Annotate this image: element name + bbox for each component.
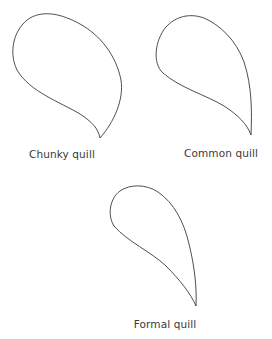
formal-quill-label: Formal quill <box>134 318 196 330</box>
chunky-quill-shape <box>13 14 122 138</box>
chunky-quill-label: Chunky quill <box>29 148 95 160</box>
formal-quill-shape <box>110 186 196 306</box>
common-quill-shape <box>156 16 251 135</box>
quill-shapes-diagram <box>0 0 272 339</box>
common-quill-label: Common quill <box>184 147 258 159</box>
